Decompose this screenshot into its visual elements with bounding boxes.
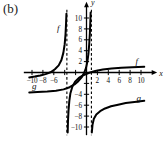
y-tick-label: 6 [78, 36, 82, 44]
y-tick-label: 10 [75, 15, 83, 23]
y-tick-label: 8 [78, 26, 82, 34]
curve-label-g: g [32, 81, 37, 91]
x-axis-arrow [152, 70, 158, 75]
curve-label-f: f [57, 23, 61, 33]
x-axis-label: x [158, 69, 163, 78]
y-tick-label: 2 [78, 58, 82, 66]
x-tick-label: 10 [137, 77, 145, 85]
y-tick-label: 4 [78, 47, 82, 55]
y-axis-arrow [84, 2, 89, 8]
y-tick-label: −8 [74, 113, 82, 121]
graph-canvas: −10−8−6246810−10−8−6−4246810 xy ffgg [0, 0, 163, 141]
x-tick-label: 4 [107, 77, 111, 85]
x-tick-label: −8 [39, 77, 47, 85]
y-tick-label: −10 [71, 124, 83, 132]
y-tick-label: −6 [74, 102, 82, 110]
figure-panel: (b) −10−8−6246810−10−8−6−4246810 xy ffgg [0, 0, 163, 141]
curve-g [92, 101, 144, 133]
curve-label-g: g [137, 93, 142, 103]
y-tick-label: −4 [74, 91, 82, 99]
x-tick-label: 8 [128, 77, 132, 85]
x-tick-label: −6 [50, 77, 58, 85]
x-tick-label: 6 [117, 77, 121, 85]
curve-f [29, 14, 66, 78]
curve-label-f: f [135, 56, 139, 66]
y-axis-label: y [90, 0, 95, 7]
x-tick-label: 2 [96, 77, 100, 85]
axis-label-group: xy [90, 0, 163, 78]
